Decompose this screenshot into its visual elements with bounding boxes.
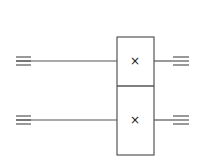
left-terminal-icon xyxy=(16,116,31,124)
right-terminal-icon xyxy=(173,57,189,65)
wire-2 xyxy=(16,116,189,124)
wire-1 xyxy=(16,57,189,65)
gate-block: ×× xyxy=(117,37,154,155)
left-terminal-icon xyxy=(16,57,31,65)
right-terminal-icon xyxy=(173,116,189,124)
wires xyxy=(16,57,189,124)
cross-icon: × xyxy=(130,54,140,68)
circuit-diagram: ×× xyxy=(0,0,205,167)
cross-icon: × xyxy=(130,113,140,127)
